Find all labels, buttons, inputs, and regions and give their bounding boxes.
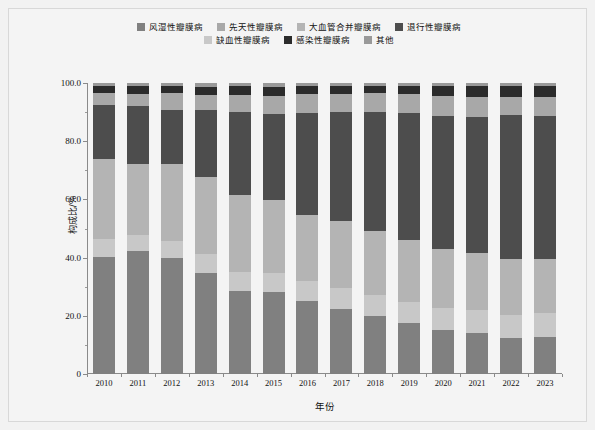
- bar-segment[interactable]: [432, 249, 454, 308]
- bar-segment[interactable]: [263, 114, 285, 200]
- bar-segment[interactable]: [432, 96, 454, 115]
- bar-column[interactable]: [534, 83, 556, 374]
- bar-segment[interactable]: [161, 93, 183, 110]
- bar-column[interactable]: [229, 83, 251, 374]
- bar-segment[interactable]: [330, 112, 352, 221]
- bar-segment[interactable]: [229, 86, 251, 95]
- bar-column[interactable]: [195, 83, 217, 374]
- bar-segment[interactable]: [398, 94, 420, 113]
- bar-segment[interactable]: [93, 239, 115, 257]
- bar-segment[interactable]: [161, 86, 183, 93]
- bar-segment[interactable]: [364, 112, 386, 232]
- bar-segment[interactable]: [93, 93, 115, 105]
- bar-segment[interactable]: [195, 95, 217, 110]
- legend-item[interactable]: 缺血性瓣膜病: [204, 36, 270, 45]
- bar-column[interactable]: [466, 83, 488, 374]
- bar-segment[interactable]: [364, 93, 386, 112]
- bar-segment[interactable]: [195, 110, 217, 177]
- legend-item[interactable]: 风湿性瓣膜病: [137, 23, 203, 32]
- bar-segment[interactable]: [432, 116, 454, 250]
- bar-column[interactable]: [93, 83, 115, 374]
- bar-segment[interactable]: [195, 177, 217, 254]
- bar-segment[interactable]: [398, 113, 420, 240]
- bar-segment[interactable]: [195, 254, 217, 272]
- bar-segment[interactable]: [195, 273, 217, 374]
- bar-segment[interactable]: [296, 281, 318, 301]
- bar-segment[interactable]: [330, 221, 352, 288]
- bar-segment[interactable]: [398, 302, 420, 324]
- bar-segment[interactable]: [466, 333, 488, 374]
- bar-segment[interactable]: [330, 288, 352, 308]
- bar-segment[interactable]: [364, 231, 386, 295]
- bar-segment[interactable]: [534, 116, 556, 258]
- bar-segment[interactable]: [534, 313, 556, 337]
- bar-segment[interactable]: [500, 115, 522, 259]
- bar-segment[interactable]: [364, 295, 386, 316]
- legend-item[interactable]: 先天性瓣膜病: [217, 23, 283, 32]
- bar-column[interactable]: [263, 83, 285, 374]
- bar-segment[interactable]: [127, 86, 149, 94]
- bar-segment[interactable]: [93, 159, 115, 239]
- bar-segment[interactable]: [500, 259, 522, 314]
- bar-segment[interactable]: [432, 308, 454, 330]
- bar-segment[interactable]: [296, 113, 318, 215]
- bar-segment[interactable]: [500, 97, 522, 116]
- bar-column[interactable]: [398, 83, 420, 374]
- bar-segment[interactable]: [432, 330, 454, 374]
- bar-segment[interactable]: [398, 240, 420, 301]
- bar-segment[interactable]: [432, 86, 454, 96]
- bar-segment[interactable]: [296, 215, 318, 281]
- bar-segment[interactable]: [466, 86, 488, 96]
- bar-segment[interactable]: [500, 86, 522, 96]
- bar-segment[interactable]: [195, 87, 217, 95]
- bar-segment[interactable]: [127, 251, 149, 374]
- bar-segment[interactable]: [263, 273, 285, 292]
- bar-segment[interactable]: [93, 105, 115, 159]
- bar-column[interactable]: [296, 83, 318, 374]
- bar-segment[interactable]: [161, 164, 183, 241]
- bar-column[interactable]: [364, 83, 386, 374]
- bar-segment[interactable]: [500, 315, 522, 338]
- bar-column[interactable]: [432, 83, 454, 374]
- bar-segment[interactable]: [229, 112, 251, 194]
- bar-segment[interactable]: [296, 301, 318, 374]
- legend-item[interactable]: 其他: [364, 36, 394, 45]
- bar-segment[interactable]: [93, 86, 115, 93]
- bar-segment[interactable]: [161, 258, 183, 374]
- bar-segment[interactable]: [466, 310, 488, 333]
- bar-segment[interactable]: [161, 241, 183, 258]
- bar-segment[interactable]: [229, 95, 251, 112]
- bar-segment[interactable]: [364, 86, 386, 93]
- bar-segment[interactable]: [229, 195, 251, 272]
- bar-segment[interactable]: [398, 86, 420, 94]
- bar-segment[interactable]: [398, 323, 420, 374]
- bar-segment[interactable]: [263, 96, 285, 114]
- bar-segment[interactable]: [296, 94, 318, 113]
- bar-segment[interactable]: [330, 86, 352, 94]
- bar-segment[interactable]: [364, 316, 386, 374]
- bar-segment[interactable]: [296, 86, 318, 94]
- bar-segment[interactable]: [534, 259, 556, 314]
- bar-segment[interactable]: [534, 86, 556, 97]
- legend-item[interactable]: 退行性瓣膜病: [395, 23, 461, 32]
- bar-segment[interactable]: [229, 291, 251, 374]
- bar-segment[interactable]: [93, 257, 115, 374]
- bar-segment[interactable]: [466, 97, 488, 117]
- bar-segment[interactable]: [330, 94, 352, 112]
- bar-segment[interactable]: [466, 253, 488, 310]
- legend-item[interactable]: 感染性瓣膜病: [284, 36, 350, 45]
- bar-column[interactable]: [330, 83, 352, 374]
- bar-segment[interactable]: [500, 338, 522, 374]
- bar-segment[interactable]: [127, 94, 149, 107]
- legend-item[interactable]: 大血管合并瓣膜病: [297, 23, 381, 32]
- bar-segment[interactable]: [263, 200, 285, 273]
- bar-segment[interactable]: [127, 164, 149, 235]
- bar-segment[interactable]: [161, 110, 183, 164]
- bar-column[interactable]: [127, 83, 149, 374]
- bar-column[interactable]: [500, 83, 522, 374]
- bar-segment[interactable]: [534, 97, 556, 116]
- bar-column[interactable]: [161, 83, 183, 374]
- bar-segment[interactable]: [263, 87, 285, 96]
- bar-segment[interactable]: [330, 309, 352, 374]
- bar-segment[interactable]: [263, 292, 285, 374]
